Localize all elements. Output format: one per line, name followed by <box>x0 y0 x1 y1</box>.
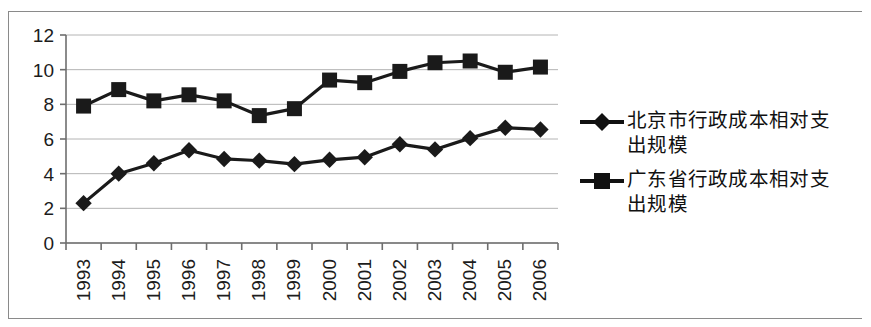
y-tick-label: 10 <box>33 60 54 81</box>
data-point-marker <box>111 82 126 97</box>
x-tick-labels: 1993199419951996199719981999200020012002… <box>73 259 551 302</box>
y-tick-label: 6 <box>43 129 54 150</box>
data-point-marker <box>182 87 197 102</box>
x-axis <box>66 243 558 250</box>
data-point-marker <box>532 121 548 137</box>
data-point-marker <box>357 75 372 90</box>
x-tick-label: 1996 <box>178 259 199 301</box>
chart-figure: 024681012 199319941995199619971998199920… <box>0 0 871 327</box>
y-tick-labels: 024681012 <box>33 25 55 254</box>
x-tick-label: 2006 <box>529 259 550 301</box>
data-point-marker <box>146 93 161 108</box>
x-tick-label: 2004 <box>459 259 480 302</box>
x-tick-label: 1995 <box>143 259 164 301</box>
legend-label-guangdong: 广东省行政成本相对支出规模 <box>627 167 849 217</box>
data-point-marker <box>392 64 407 79</box>
x-tick-label: 2000 <box>319 259 340 301</box>
legend-label-beijing: 北京市行政成本相对支出规模 <box>627 108 849 158</box>
square-marker-icon <box>580 169 624 193</box>
x-tick-label: 2002 <box>389 259 410 301</box>
data-point-marker <box>146 155 162 171</box>
data-point-marker <box>287 101 302 116</box>
data-point-marker <box>497 120 513 136</box>
data-point-marker <box>322 73 337 88</box>
data-point-marker <box>286 156 302 172</box>
data-point-marker <box>251 152 267 168</box>
x-tick-label: 2001 <box>354 259 375 301</box>
data-point-marker <box>498 65 513 80</box>
data-point-marker <box>76 99 91 114</box>
data-point-marker <box>216 151 232 167</box>
data-point-marker <box>181 142 197 158</box>
y-axis <box>60 35 66 243</box>
data-series-group <box>75 54 548 212</box>
x-tick-label: 1997 <box>213 259 234 301</box>
x-tick-label: 1994 <box>108 259 129 302</box>
x-tick-label: 1999 <box>283 259 304 301</box>
x-tick-label: 2005 <box>494 259 515 301</box>
data-point-marker <box>427 141 443 157</box>
y-tick-label: 4 <box>43 164 54 185</box>
legend-item-beijing: 北京市行政成本相对支出规模 <box>580 108 860 158</box>
data-point-marker <box>252 108 267 123</box>
data-point-marker <box>217 93 232 108</box>
data-point-marker <box>463 54 478 69</box>
data-point-marker <box>321 152 337 168</box>
data-point-marker <box>428 55 443 70</box>
data-point-marker <box>392 136 408 152</box>
legend-item-guangdong: 广东省行政成本相对支出规模 <box>580 167 860 217</box>
chart-legend: 北京市行政成本相对支出规模 广东省行政成本相对支出规模 <box>580 108 860 226</box>
x-tick-label: 1998 <box>248 259 269 301</box>
data-point-marker <box>533 60 548 75</box>
x-tick-label: 2003 <box>424 259 445 301</box>
y-tick-label: 0 <box>43 233 54 254</box>
data-point-marker <box>357 149 373 165</box>
data-point-marker <box>462 130 478 146</box>
y-tick-label: 12 <box>33 25 54 46</box>
y-tick-label: 2 <box>43 198 54 219</box>
x-tick-label: 1993 <box>73 259 94 301</box>
diamond-marker-icon <box>580 110 624 134</box>
y-tick-label: 8 <box>43 94 54 115</box>
